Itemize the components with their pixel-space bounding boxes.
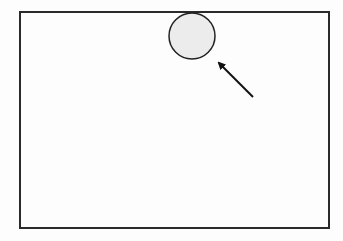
diagram-svg [0, 0, 343, 241]
diagram-canvas [0, 0, 343, 241]
circle-shape [169, 13, 215, 59]
arrow-icon [219, 63, 253, 97]
